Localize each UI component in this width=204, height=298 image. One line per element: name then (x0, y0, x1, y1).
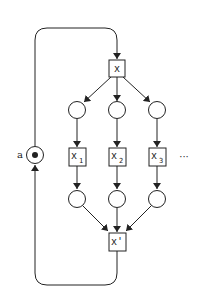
place-lower-3 (149, 191, 166, 208)
arc-q3-to-xprime (126, 206, 151, 231)
arc-x-to-p1 (84, 77, 111, 102)
transition-x-label: x (114, 63, 120, 74)
transition-x2: x 2 (109, 148, 126, 166)
place-lower-2 (109, 191, 126, 208)
place-a-label: a (17, 149, 23, 160)
transition-x3-subscript: 3 (159, 157, 163, 165)
transition-x-prime: x' (109, 233, 126, 251)
arc-q1-to-xprime (83, 206, 108, 231)
place-a (27, 147, 44, 164)
transition-x1: x 1 (69, 148, 86, 166)
transition-x1-subscript: 1 (79, 157, 83, 165)
place-upper-2 (109, 102, 126, 119)
transition-x: x (109, 60, 125, 77)
place-upper-3 (149, 102, 166, 119)
place-upper-1 (69, 102, 86, 119)
transition-x3: x 3 (149, 148, 166, 166)
arc-x-to-p3 (123, 77, 150, 102)
transition-x2-subscript: 2 (119, 157, 123, 165)
token (32, 152, 38, 158)
transition-x3-label: x (151, 150, 157, 161)
arc-a-to-x (35, 28, 117, 146)
arc-xprime-to-a (35, 165, 117, 285)
place-lower-1 (69, 191, 86, 208)
petri-net-diagram: x x 1 x 2 x 3 ··· x' (0, 0, 204, 298)
continuation-ellipsis: ··· (179, 151, 189, 162)
transition-x-prime-label: x' (111, 236, 123, 247)
transition-x1-label: x (71, 150, 77, 161)
transition-x2-label: x (111, 150, 117, 161)
